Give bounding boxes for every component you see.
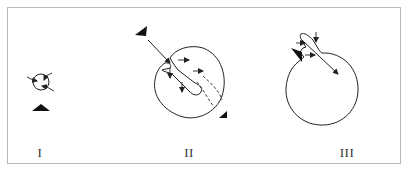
panel-ii-triangle-bottom-right — [219, 111, 227, 118]
panel-ii-drawing — [135, 26, 227, 118]
panel-iii-long-arrow — [302, 40, 338, 74]
panel-ii-label: II — [184, 145, 194, 161]
panel-iii-triangle-marker — [291, 48, 302, 62]
panel-iii-label: III — [340, 145, 355, 161]
panel-i-label: I — [38, 145, 43, 161]
panel-i-drawing — [27, 73, 54, 111]
panel-ii-triangle-top-left — [135, 26, 147, 36]
panel-iii-outline-with-neck — [286, 33, 358, 125]
panel-i-circle — [33, 74, 49, 90]
panel-i-triangle-marker — [32, 104, 50, 111]
panel-ii-dashed-line-2 — [203, 76, 222, 100]
panel-ii-entry-arrow — [148, 40, 170, 63]
panel-iii-drawing — [286, 32, 358, 125]
panel-i-arrow-left — [27, 77, 37, 81]
